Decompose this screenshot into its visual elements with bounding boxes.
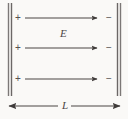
charge-label-negative-2: − — [106, 43, 112, 53]
charge-label-positive-3: + — [15, 74, 21, 84]
charge-label-positive-2: + — [15, 43, 21, 53]
field-label-E: E — [60, 28, 67, 39]
dimension-label-L: L — [59, 100, 71, 111]
left-plate — [9, 3, 12, 96]
charge-label-negative-3: − — [106, 74, 112, 84]
right-plate — [118, 3, 121, 96]
capacitor-figure: + + + − − − E L — [0, 0, 128, 119]
charge-label-negative-1: − — [106, 13, 112, 23]
charge-label-positive-1: + — [15, 13, 21, 23]
